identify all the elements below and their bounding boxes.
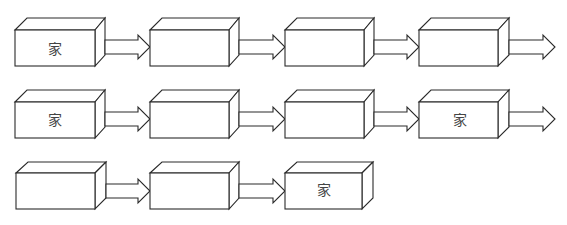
box-top-face: [150, 18, 239, 30]
box-top-face: [150, 90, 239, 102]
box-front-face: [285, 30, 364, 66]
box-r2-c4: 家: [419, 90, 509, 138]
box-top-face: [285, 90, 374, 102]
flow-diagram: 家 家: [0, 0, 567, 225]
box-r3-c2: [150, 162, 239, 209]
arrow-r1-trailing: [509, 35, 555, 59]
box-top-face: [16, 162, 106, 173]
row-1: 家: [15, 18, 555, 66]
row-3: 家: [16, 162, 373, 209]
box-front-face: [150, 173, 229, 209]
arrow-r3-2: [239, 179, 285, 203]
arrow-r2-trailing: [509, 107, 555, 131]
box-r1-c4: [419, 18, 509, 66]
box-label: 家: [317, 182, 331, 198]
box-r1-c1: 家: [15, 18, 105, 66]
box-front-face: [16, 173, 95, 209]
arrow-r2-1: [105, 107, 150, 131]
box-front-face: [150, 102, 229, 138]
box-label: 家: [48, 41, 62, 57]
box-r3-c3: 家: [285, 162, 373, 209]
arrow-r1-1: [105, 35, 150, 59]
box-front-face: [419, 30, 498, 66]
box-label: 家: [48, 112, 62, 128]
arrow-r3-1: [106, 179, 150, 203]
arrow-r1-2: [239, 35, 285, 59]
box-top-face: [15, 18, 105, 30]
box-r2-c2: [150, 90, 239, 138]
row-2: 家 家: [15, 90, 555, 138]
box-r1-c2: [150, 18, 239, 66]
box-top-face: [285, 18, 374, 30]
box-front-face: [150, 30, 229, 66]
arrow-r2-2: [239, 107, 285, 131]
arrow-r2-3: [374, 107, 419, 131]
box-top-face: [419, 90, 509, 102]
box-r3-c1: [16, 162, 106, 209]
box-r2-c3: [285, 90, 374, 138]
box-front-face: [285, 102, 364, 138]
box-label: 家: [453, 112, 467, 128]
box-r2-c1: 家: [15, 90, 105, 138]
arrow-r1-3: [374, 35, 419, 59]
box-top-face: [15, 90, 105, 102]
box-top-face: [150, 162, 239, 173]
box-top-face: [285, 162, 373, 173]
box-r1-c3: [285, 18, 374, 66]
box-top-face: [419, 18, 509, 30]
